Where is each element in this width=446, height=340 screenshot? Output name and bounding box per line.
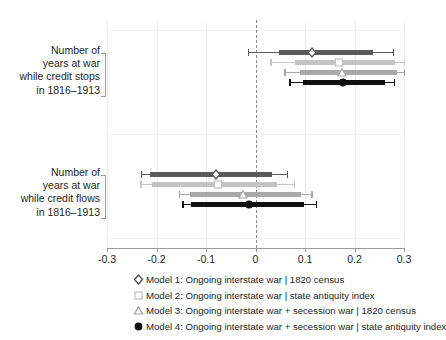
legend-label: Model 1: Ongoing interstate war | 1820 c… [146,274,344,285]
diamond-marker-icon [130,274,146,285]
square-marker-icon [130,290,146,301]
confidence-interval-cap [284,69,285,76]
legend: Model 1: Ongoing interstate war | 1820 c… [130,272,420,334]
confidence-interval-cap [316,201,317,208]
confidence-interval-cap [404,69,405,76]
confidence-interval-inner [300,70,397,75]
legend-item[interactable]: Model 1: Ongoing interstate war | 1820 c… [130,272,420,288]
confidence-interval-cap [182,201,183,208]
confidence-interval-cap [287,171,288,178]
confidence-interval-cap [179,191,180,198]
confidence-interval-inner [295,60,395,65]
legend-label: Model 3: Ongoing interstate war + secess… [146,305,416,316]
confidence-interval-cap [141,171,142,178]
legend-item[interactable]: Model 2: Ongoing interstate war | state … [130,288,420,304]
x-axis-tick [404,248,405,252]
estimate-row [0,199,421,210]
x-axis-tick-label: -0.1 [197,253,215,265]
x-axis-tick [107,248,108,252]
x-axis-tick-label: -0.3 [98,253,116,265]
legend-label: Model 4: Ongoing interstate war + secess… [146,321,446,332]
circle-marker-icon [244,199,255,210]
x-axis-tick [256,248,257,252]
confidence-interval-cap [140,181,141,188]
circle-marker-icon [338,77,349,88]
legend-item[interactable]: Model 4: Ongoing interstate war + secess… [130,319,420,335]
confidence-interval-cap [404,59,405,66]
x-axis-tick-label: 0.1 [298,253,313,265]
x-axis-tick-label: 0.3 [397,253,412,265]
confidence-interval-cap [248,49,249,56]
legend-label: Model 2: Ongoing interstate war | state … [146,290,375,301]
circle-marker-icon [130,321,146,332]
confidence-interval-cap [311,191,312,198]
triangle-marker-icon [130,305,146,316]
x-axis-tick-label: 0.2 [347,253,362,265]
x-axis-tick [355,248,356,252]
confidence-interval-cap [294,181,295,188]
confidence-interval-inner [279,50,374,55]
x-axis-tick [305,248,306,252]
x-axis-tick-label: 0 [253,253,259,265]
x-axis-tick [157,248,158,252]
confidence-interval-cap [393,49,394,56]
confidence-interval-cap [289,79,290,86]
estimate-row [0,77,421,88]
confidence-interval-cap [270,59,271,66]
legend-item[interactable]: Model 3: Ongoing interstate war + secess… [130,303,420,319]
x-axis-tick [206,248,207,252]
x-axis-tick-label: -0.2 [147,253,165,265]
confidence-interval-cap [394,79,395,86]
